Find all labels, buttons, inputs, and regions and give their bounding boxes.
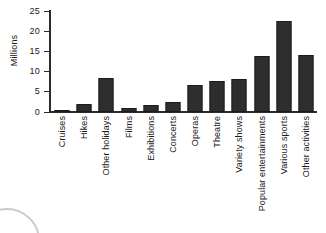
x-label-slot: Various sports — [273, 114, 295, 233]
x-label-slot: Exhibitions — [140, 114, 162, 233]
y-axis-tick — [44, 11, 49, 12]
bar-slot — [251, 11, 273, 112]
x-label-slot: Other activities — [295, 114, 317, 233]
bar-slot — [295, 11, 317, 112]
bar — [254, 56, 269, 112]
x-axis-tick-label: Other holidays — [102, 116, 111, 175]
bar — [232, 79, 247, 112]
bar — [55, 110, 70, 112]
x-axis-labels: CruisesHikesOther holidaysFilmsExhibitio… — [51, 114, 317, 233]
x-axis-tick-label: Hikes — [80, 116, 89, 139]
x-axis-tick-label: Concerts — [168, 116, 177, 153]
y-axis-tick-label: 20 — [0, 27, 40, 36]
bar-series — [51, 11, 317, 112]
x-axis-tick-label: Cruises — [58, 116, 67, 147]
bar-slot — [51, 11, 73, 112]
bar-slot — [206, 11, 228, 112]
bar — [165, 102, 180, 113]
x-axis-tick-label: Exhibitions — [146, 116, 155, 161]
x-label-slot: Variety shows — [228, 114, 250, 233]
x-axis-tick-label: Films — [124, 116, 133, 138]
x-label-slot: Concerts — [162, 114, 184, 233]
x-label-slot: Hikes — [73, 114, 95, 233]
x-label-slot: Popular entertainments — [251, 114, 273, 233]
x-axis-tick-label: Theatre — [213, 116, 222, 148]
y-axis-tick-label: 0 — [0, 108, 40, 117]
bar — [77, 104, 92, 112]
bar-slot — [73, 11, 95, 112]
x-label-slot: Other holidays — [95, 114, 117, 233]
y-axis-tick — [44, 31, 49, 32]
y-axis-tick — [44, 51, 49, 52]
x-label-slot: Cruises — [51, 114, 73, 233]
x-axis-tick-label: Other activities — [301, 116, 310, 177]
x-label-slot: Theatre — [206, 114, 228, 233]
x-axis-tick-label: Variety shows — [235, 116, 244, 173]
y-axis-tick-label: 15 — [0, 47, 40, 56]
y-axis-tick-label: 25 — [0, 7, 40, 16]
x-axis-tick-label: Popular entertainments — [257, 116, 266, 211]
bar — [188, 85, 203, 112]
bar — [276, 21, 291, 112]
bar — [298, 55, 313, 112]
y-axis-tick — [44, 71, 49, 72]
x-axis-tick-label: Various sports — [279, 116, 288, 174]
bar — [99, 78, 114, 112]
y-axis-tick-label: 10 — [0, 67, 40, 76]
x-label-slot: Operas — [184, 114, 206, 233]
bar-slot — [118, 11, 140, 112]
x-axis-tick-label: Operas — [191, 116, 200, 146]
bar — [143, 105, 158, 112]
x-label-slot: Films — [118, 114, 140, 233]
bar-slot — [273, 11, 295, 112]
bar-slot — [140, 11, 162, 112]
y-axis-tick — [44, 91, 49, 92]
bar — [210, 81, 225, 112]
bar-slot — [228, 11, 250, 112]
bar-slot — [184, 11, 206, 112]
y-axis-tick — [44, 112, 49, 113]
bar — [121, 108, 136, 112]
bar-slot — [95, 11, 117, 112]
scan-artifact — [0, 208, 40, 233]
y-axis-tick-label: 5 — [0, 87, 40, 96]
bar-chart: Millions 0510152025 CruisesHikesOther ho… — [0, 0, 326, 233]
bar-slot — [162, 11, 184, 112]
